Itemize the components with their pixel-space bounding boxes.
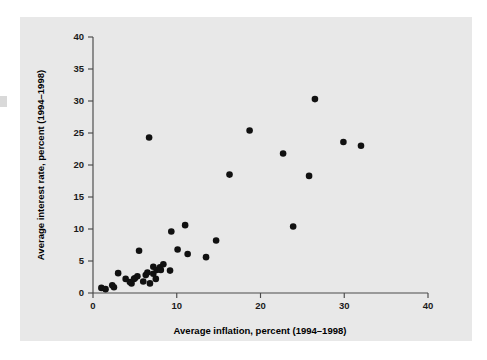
x-tick-label: 20 [255,300,266,311]
data-point [115,270,122,277]
data-point [226,171,233,178]
data-point [146,134,153,141]
data-point [280,150,287,157]
y-axis-title: Average interest rate, percent (1994–199… [35,70,46,260]
y-tick-label: 35 [73,63,84,74]
data-point [153,276,160,283]
data-point [182,222,189,229]
data-point [140,278,147,285]
x-tick-label: 10 [171,300,182,311]
scatter-plot: 0510152025303540 010203040 Average infla… [0,0,487,360]
data-point [340,139,347,146]
data-point [160,261,167,268]
y-tick-label: 0 [79,287,84,298]
figure-canvas: 0510152025303540 010203040 Average infla… [0,0,487,360]
data-points-layer [98,96,364,293]
y-tick-label: 5 [79,255,85,266]
data-point [184,251,191,258]
data-point [203,254,210,261]
x-tick-label: 30 [339,300,350,311]
x-axis: 010203040 [90,293,433,311]
data-point [102,286,109,293]
data-point [306,173,313,180]
data-point [158,267,165,274]
y-tick-label: 30 [73,95,84,106]
y-tick-label: 40 [73,31,84,42]
data-point [134,273,141,280]
x-tick-label: 0 [90,300,95,311]
y-axis: 0510152025303540 [73,31,93,298]
data-point [147,280,154,287]
data-point [213,237,220,244]
data-point [246,127,253,134]
y-tick-label: 15 [73,191,84,202]
data-point [109,282,116,289]
x-tick-label: 40 [423,300,434,311]
y-tick-label: 25 [73,127,84,138]
data-point [290,223,297,230]
data-point [174,246,181,253]
data-point [168,228,175,235]
data-point [358,143,365,150]
y-tick-label: 10 [73,223,84,234]
x-axis-title: Average inflation, percent (1994–1998) [174,325,347,336]
data-point [167,267,174,274]
data-point [312,96,319,103]
y-tick-label: 20 [73,159,84,170]
data-point [136,247,143,254]
data-point [144,269,151,276]
